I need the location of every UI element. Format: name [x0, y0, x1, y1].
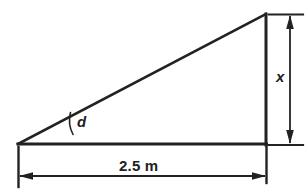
angle-label: d	[77, 114, 86, 129]
horizontal-dimension-arrow-right	[252, 172, 266, 180]
triangle-shape	[18, 14, 267, 145]
base-dimension-label: 2.5 m	[119, 158, 158, 173]
vertical-dimension-arrow-top	[286, 15, 294, 29]
height-dimension-label: x	[276, 69, 284, 84]
vertical-dimension-group	[269, 15, 303, 146]
vertical-dimension-arrow-bottom	[286, 130, 294, 144]
triangle-hypotenuse-line	[18, 14, 266, 144]
horizontal-dimension-arrow-left	[19, 172, 33, 180]
figure-container: 2.5 m x d	[0, 0, 308, 192]
